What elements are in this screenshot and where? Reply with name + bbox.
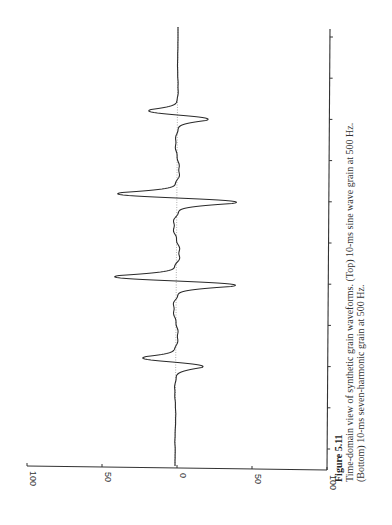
time-axis [327,29,330,470]
caption-line-2: (Bottom) 10-ms seven-harmonic grain at 5… [355,285,367,482]
figure-caption: Figure 5.11 Time-domain view of syntheti… [333,123,367,482]
caption-label: Figure 5.11 [333,434,344,482]
amplitude-tick-label: 100 [28,471,38,486]
amplitude-tick-label: 50 [253,474,263,484]
amplitude-tick-label: 50 [103,472,113,482]
amplitude-tick-label: 0 [178,473,188,478]
amplitude-axis-labels: 10050050100 [28,471,338,490]
seven-harmonic-grain-waveform [115,27,237,466]
figure-5-11: 10050050100 Figure 5.11 Time-domain view… [0,0,392,525]
